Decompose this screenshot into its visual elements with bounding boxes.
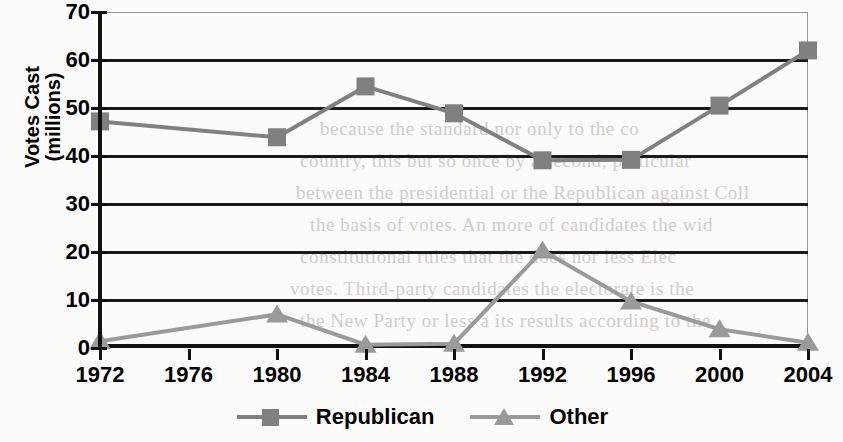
x-axis-tick [453,349,456,360]
series-lines [100,12,808,348]
data-point-marker[interactable] [622,151,640,169]
x-axis-tick [276,349,279,360]
x-axis-tick-label: 2004 [784,362,833,388]
legend-label-republican: Republican [316,404,435,430]
y-axis-tick-label: 0 [28,337,90,359]
y-axis-tick-label: 60 [28,49,90,71]
data-point-marker[interactable] [532,241,554,259]
chart-container: because the standard nor only to the co … [0,0,843,442]
data-point-marker[interactable] [445,104,463,122]
x-axis-tick [542,349,545,360]
legend-label-other: Other [549,404,608,430]
x-axis-tick-label: 1980 [253,362,302,388]
square-marker-icon [235,406,309,428]
y-axis-tick-label: 30 [28,193,90,215]
x-axis-tick-label: 1972 [76,362,125,388]
x-axis-tick-label: 2000 [695,362,744,388]
y-axis-tick-label: 20 [28,241,90,263]
x-axis-tick-label: 1984 [341,362,390,388]
x-axis-tick [365,349,368,360]
x-axis-tick [719,349,722,360]
triangle-marker-icon [468,406,542,428]
x-axis-tick [807,349,810,360]
data-point-marker[interactable] [711,97,729,115]
legend-item-other[interactable]: Other [468,404,608,430]
data-point-marker[interactable] [620,291,642,309]
x-axis-tick-label: 1988 [430,362,479,388]
x-axis-tick-label: 1996 [607,362,656,388]
chart-legend: Republican Other [0,404,843,430]
data-point-marker[interactable] [268,128,286,146]
x-axis-tick-label: 1992 [518,362,567,388]
x-axis-tick-label: 1976 [164,362,213,388]
y-axis-tick-label: 70 [28,1,90,23]
data-point-marker[interactable] [799,41,817,59]
y-axis-tick-label: 40 [28,145,90,167]
x-axis-tick [99,349,102,360]
plot-area [100,12,808,348]
data-point-marker[interactable] [266,304,288,322]
x-axis-tick [630,349,633,360]
y-axis-labels: 010203040506070 [20,0,90,360]
y-axis-line [98,12,102,350]
series-line [100,251,808,345]
data-point-marker[interactable] [357,77,375,95]
legend-item-republican[interactable]: Republican [235,404,435,430]
y-axis-tick-label: 50 [28,97,90,119]
x-axis-tick [188,349,191,360]
y-axis-tick-label: 10 [28,289,90,311]
data-point-marker[interactable] [534,151,552,169]
